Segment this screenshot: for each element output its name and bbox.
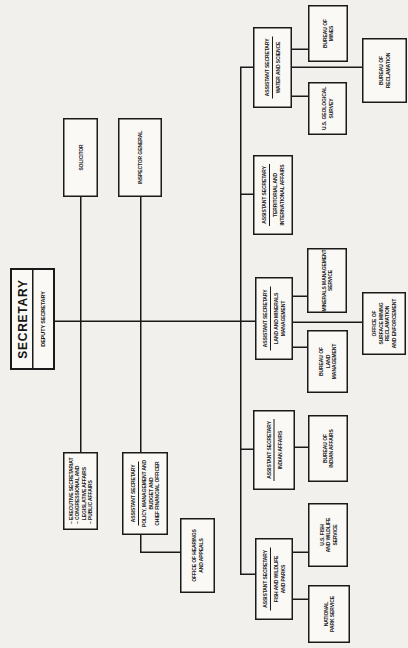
connector-stub-tia xyxy=(240,194,253,196)
inspector-general-label: INSPECTOR GENERAL xyxy=(137,131,144,184)
bureau-label: MINERALS MANAGEMENTSERVICE xyxy=(321,250,334,312)
connector-stub-lmm xyxy=(240,321,255,323)
assistant-secretary-pmb-box: ASSISTANT SECRETARY POLICY, MANAGEMENT A… xyxy=(122,452,168,535)
divider xyxy=(270,287,271,351)
divider xyxy=(138,462,139,526)
national-park-service-box: NATIONALPARK SERVICE xyxy=(308,585,350,643)
assistant-secretary-label: ASSISTANT SECRETARY xyxy=(264,29,271,107)
minerals-management-service-box: MINERALS MANAGEMENTSERVICE xyxy=(307,248,347,313)
connector-trunk xyxy=(55,321,240,323)
secretary-box: SECRETARY DEPUTY SECRETARY xyxy=(10,268,55,370)
connector-drop-bor xyxy=(292,67,362,69)
bureau-label: OFFICE OFSURFACE MININGRECLAMATIONAND EN… xyxy=(371,299,397,348)
bureau-label: BUREAU OFLANDMANAGEMENT xyxy=(318,344,338,379)
org-chart-page: SECRETARY DEPUTY SECRETARY – EXECUTIVE S… xyxy=(0,0,408,648)
assistant-secretary-land-minerals-box: ASSISTANT SECRETARY LAND AND MINERALSMAN… xyxy=(255,277,293,360)
portfolio-label: TERRITORIAL ANDINTERNATIONAL AFFAIRS xyxy=(272,165,285,226)
assistant-secretary-label: ASSISTANT SECRETARY xyxy=(130,454,137,534)
assistant-secretary-label: ASSISTANT SECRETARY xyxy=(261,157,268,234)
connector-drop-mms xyxy=(293,296,307,298)
us-geological-survey-box: U.S. GEOLOGICALSURVEY xyxy=(308,82,347,135)
connector-drop-usfws xyxy=(293,552,308,554)
bureau-label: BUREAU OFRECLAMATION xyxy=(378,53,391,88)
hearings-appeals-label: OFFICE OF HEARINGSAND APPEALS xyxy=(191,529,204,582)
divider xyxy=(273,419,274,481)
assistant-secretary-indian-affairs-box: ASSISTANT SECRETARY INDIAN AFFAIRS xyxy=(253,410,295,490)
connector-stub-ws xyxy=(240,67,253,69)
org-chart: SECRETARY DEPUTY SECRETARY – EXECUTIVE S… xyxy=(0,0,408,648)
us-fish-wildlife-service-box: U.S. FISHAND WILDLIFESERVICE xyxy=(308,503,348,567)
assistant-secretary-label: ASSISTANT SECRETARY xyxy=(262,279,269,359)
assistant-secretary-territorial-international-box: ASSISTANT SECRETARY TERRITORIAL ANDINTER… xyxy=(253,155,293,235)
office-of-surface-mining-box: OFFICE OFSURFACE MININGRECLAMATIONAND EN… xyxy=(362,292,406,355)
solicitor-label: SOLICITOR xyxy=(77,144,84,170)
bureau-label: U.S. FISHAND WILDLIFESERVICE xyxy=(318,518,338,553)
assistant-secretary-water-science-box: ASSISTANT SECRETARY WATER AND SCIENCE xyxy=(253,27,292,108)
office-of-hearings-and-appeals-box: OFFICE OF HEARINGSAND APPEALS xyxy=(180,518,215,593)
connector-stub-indian xyxy=(240,449,253,451)
portfolio-label: FISH AND WILDLIFEAND PARKS xyxy=(273,556,286,603)
portfolio-label: LAND AND MINERALSMANAGEMENT xyxy=(273,293,286,345)
assistant-secretary-label: ASSISTANT SECRETARY xyxy=(262,540,269,619)
bureau-of-reclamation-box: BUREAU OFRECLAMATION xyxy=(362,38,407,103)
portfolio-label: INDIAN AFFAIRS xyxy=(276,431,283,469)
connector-hearings-h xyxy=(140,535,142,553)
bureau-of-mines-box: BUREAU OFMINES xyxy=(308,5,348,62)
connector-hearings-v xyxy=(140,552,180,554)
divider xyxy=(269,164,270,226)
assistant-secretary-fish-wildlife-parks-box: ASSISTANT SECRETARY FISH AND WILDLIFEAND… xyxy=(255,538,293,620)
divider xyxy=(270,547,271,610)
bureau-of-indian-affairs-box: BUREAU OFINDIAN AFFAIRS xyxy=(308,415,348,482)
executive-secretariat-box: – EXECUTIVE SECRETARIAT– CONGRESSIONAL A… xyxy=(63,452,98,530)
connector-drop-osm xyxy=(293,322,362,324)
assistant-secretary-label: ASSISTANT SECRETARY xyxy=(265,412,272,489)
portfolio-label: WATER AND SCIENCE xyxy=(275,42,282,94)
secretary-title: SECRETARY xyxy=(12,270,32,368)
connector-exec-solicitor xyxy=(80,197,82,452)
connector-drop-usgs xyxy=(292,96,308,98)
bureau-label: NATIONALPARK SERVICE xyxy=(323,596,336,632)
connector-pmb-inspector xyxy=(140,197,142,452)
solicitor-box: SOLICITOR xyxy=(63,118,98,197)
pmb-portfolio-label: POLICY, MANAGEMENT ANDBUDGET ANDCHIEF FI… xyxy=(141,460,161,527)
divider xyxy=(272,36,273,98)
bureau-label: U.S. GEOLOGICALSURVEY xyxy=(321,87,334,130)
bureau-label: BUREAU OFINDIAN AFFAIRS xyxy=(322,429,335,467)
inspector-general-box: INSPECTOR GENERAL xyxy=(118,118,162,197)
bureau-of-land-management-box: BUREAU OFLANDMANAGEMENT xyxy=(307,330,348,393)
connector-drop-bia xyxy=(295,447,308,449)
connector-drop-bom xyxy=(292,49,308,51)
bureau-label: BUREAU OFMINES xyxy=(322,19,335,48)
connector-drop-nps xyxy=(293,599,308,601)
connector-drop-blm xyxy=(293,347,307,349)
deputy-secretary-label: DEPUTY SECRETARY xyxy=(32,270,53,368)
connector-stub-fwp xyxy=(240,574,255,576)
executive-secretariat-lines: – EXECUTIVE SECRETARIAT– CONGRESSIONAL A… xyxy=(68,458,94,524)
